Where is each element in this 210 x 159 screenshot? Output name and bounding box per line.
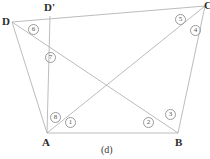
- segment-D-A-side: [12, 22, 47, 133]
- angle-2: 2: [143, 117, 154, 128]
- figure-caption: (d): [101, 145, 113, 155]
- segment-D-B-diagonal: [12, 22, 178, 133]
- angle-1: 1: [65, 117, 76, 128]
- vertex-label-C: C: [204, 0, 210, 11]
- angle-7: 7: [45, 52, 56, 63]
- segment-A-C-diagonal: [47, 6, 205, 133]
- vertex-label-D: D: [2, 16, 10, 27]
- angle-3: 3: [165, 109, 176, 120]
- angle-8: 8: [50, 112, 61, 123]
- vertex-label-Dp: D': [44, 2, 55, 13]
- angle-5: 5: [175, 14, 186, 25]
- angle-4: 4: [190, 25, 201, 36]
- vertex-label-B: B: [175, 137, 182, 148]
- angle-6: 6: [28, 24, 39, 35]
- vertex-label-A: A: [42, 137, 50, 148]
- geometry-figure: DD'CBA 12345678 (d): [0, 0, 210, 159]
